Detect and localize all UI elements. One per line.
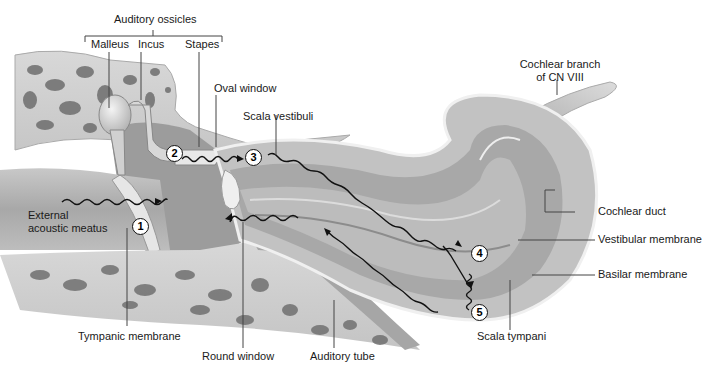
- label-external-acoustic-meatus: External acoustic meatus: [28, 209, 107, 235]
- label-cochlear-duct: Cochlear duct: [598, 205, 666, 218]
- label-malleus: Malleus: [91, 38, 129, 51]
- step-marker-1: 1: [132, 218, 149, 235]
- ear-anatomy-illustration: [0, 0, 715, 378]
- label-stapes: Stapes: [185, 38, 219, 51]
- label-scala-tympani: Scala tympani: [477, 330, 546, 343]
- step-marker-5: 5: [471, 304, 488, 321]
- label-auditory-ossicles: Auditory ossicles: [114, 13, 197, 26]
- step-marker-4: 4: [471, 245, 488, 262]
- label-basilar-membrane: Basilar membrane: [598, 268, 687, 281]
- label-tympanic-membrane: Tympanic membrane: [78, 330, 181, 343]
- label-vestibular-membrane: Vestibular membrane: [598, 233, 702, 246]
- label-incus: Incus: [138, 38, 164, 51]
- label-cochlear-branch-line2: of CN VIII: [515, 71, 605, 84]
- label-auditory-tube: Auditory tube: [310, 350, 375, 363]
- label-external-line2: acoustic meatus: [28, 222, 107, 235]
- label-scala-vestibuli: Scala vestibuli: [243, 110, 313, 123]
- step-marker-2: 2: [166, 145, 183, 162]
- label-cochlear-branch: Cochlear branch of CN VIII: [515, 58, 605, 84]
- label-cochlear-branch-line1: Cochlear branch: [515, 58, 605, 71]
- label-round-window: Round window: [202, 350, 274, 363]
- label-oval-window: Oval window: [214, 82, 276, 95]
- step-marker-3: 3: [245, 149, 262, 166]
- label-external-line1: External: [28, 209, 107, 222]
